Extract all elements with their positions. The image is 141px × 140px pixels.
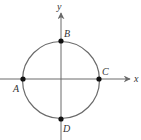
- point-a-label: A: [12, 83, 20, 94]
- point-c-label: C: [102, 66, 109, 77]
- y-axis-label: y: [56, 1, 62, 12]
- point-b: [58, 38, 63, 43]
- point-c: [96, 76, 101, 81]
- point-b-label: B: [64, 28, 70, 39]
- point-d: [58, 116, 63, 121]
- coordinate-diagram: x y A B C D: [0, 0, 141, 140]
- point-d-label: D: [62, 123, 71, 134]
- x-axis-label: x: [133, 73, 139, 84]
- diagram-canvas: x y A B C D: [0, 0, 141, 140]
- point-a: [20, 76, 25, 81]
